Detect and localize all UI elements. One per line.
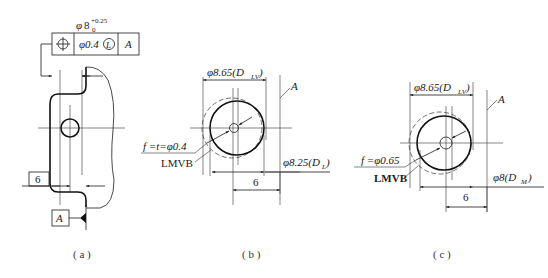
top-dim-c: φ8.65(D: [414, 81, 451, 94]
position-icon: [56, 37, 70, 51]
datum-label: A: [55, 212, 63, 224]
top-dim-b-close: ): [258, 66, 263, 79]
panel-a: φ 8 +0.25 0 φ0.4 L A: [22, 17, 139, 261]
fcf-modifier: L: [105, 40, 111, 50]
right-dim-c-close: ): [527, 171, 532, 184]
dim-6-label: 6: [35, 173, 41, 185]
caption-c: ( c ): [433, 248, 451, 261]
datum-c: A: [497, 93, 505, 105]
caption-a: ( a ): [73, 248, 91, 261]
tolerance-label-b: f =t=φ0.4: [143, 140, 187, 152]
right-dim-b-close: ): [325, 156, 330, 169]
tolerance-nominal: 8: [84, 19, 90, 31]
right-dim-c-sub: M: [520, 178, 528, 186]
datum-triangle-icon: [80, 213, 86, 223]
tolerance-phi: φ: [76, 19, 82, 31]
panel-c: φ8.65(D LV ) A f =φ0.65 LMVB φ8(D M ) 6: [354, 81, 544, 261]
top-dim-c-close: ): [465, 81, 470, 94]
caption-b: ( b ): [242, 248, 261, 261]
right-dim-b: φ8.25(D: [283, 156, 320, 169]
top-dim-b: φ8.65(D: [207, 66, 244, 79]
lmvb-label-b: LMVB: [161, 157, 193, 169]
technical-drawing: φ 8 +0.25 0 φ0.4 L A: [0, 0, 548, 278]
fcf-tolerance: φ0.4: [79, 38, 99, 50]
bottom-dim-c: 6: [463, 191, 469, 203]
datum-b: A: [290, 80, 298, 92]
tolerance-label-c: f =φ0.65: [361, 154, 400, 166]
fcf-datum: A: [124, 38, 132, 50]
right-dim-c: φ8(D: [493, 171, 516, 184]
lmvb-label-c: LMVB: [374, 172, 408, 184]
feature-control-frame: φ0.4 L A: [52, 33, 139, 55]
tolerance-upper: +0.25: [91, 17, 108, 25]
bottom-dim-b: 6: [253, 176, 259, 188]
panel-b: φ8.65(D LV ) A f =t=φ0.4 LMVB φ8.25(D L: [141, 66, 330, 261]
